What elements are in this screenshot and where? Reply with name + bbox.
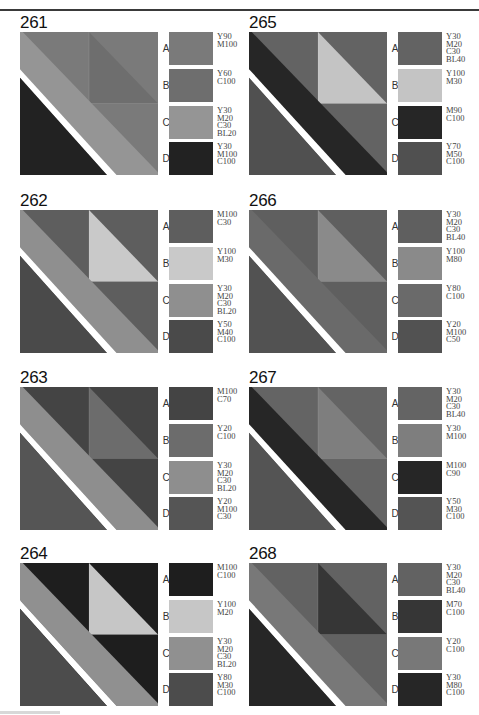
quilt-block-diagram [20, 387, 158, 530]
color-formula: Y30 M20 C30 BL40 [446, 564, 465, 594]
color-swatch [398, 461, 442, 494]
color-swatch [169, 637, 213, 670]
panel-number: 266 [249, 192, 276, 209]
color-swatch [169, 461, 213, 494]
color-swatch [398, 284, 442, 317]
color-formula: Y50 M30 C100 [446, 498, 464, 521]
color-swatch [398, 497, 442, 530]
color-formula: Y80 C100 [446, 285, 464, 300]
quilt-panel: 267AY30 M20 C30 BL40BY30 M100CM100 C90DY… [249, 369, 479, 547]
color-formula: Y30 M20 C30 BL40 [446, 33, 465, 63]
color-formula: Y30 M100 C100 [217, 143, 237, 166]
color-swatch [169, 387, 213, 420]
color-formula: M100 C30 [217, 211, 237, 226]
color-swatch [169, 247, 213, 280]
color-swatch [169, 673, 213, 706]
color-swatch [169, 424, 213, 457]
color-formula: Y30 M20 C30 BL40 [446, 388, 465, 418]
color-formula: M100 C70 [217, 388, 237, 403]
color-formula: Y30 M20 C30 BL20 [217, 107, 236, 137]
color-formula: Y20 M100 C50 [446, 321, 466, 344]
color-formula: Y30 M80 C100 [446, 674, 464, 697]
panel-number: 267 [249, 369, 276, 386]
quilt-panel: 261AY90 M100BY60 C100CY30 M20 C30 BL20DY… [20, 14, 250, 192]
color-swatch [398, 387, 442, 420]
quilt-panel: 265AY30 M20 C30 BL40BY100 M30CM90 C100DY… [249, 14, 479, 192]
quilt-block-diagram [249, 32, 387, 175]
top-rule [0, 9, 479, 11]
color-formula: M100 C100 [217, 564, 237, 579]
color-formula: Y100 M20 [217, 601, 236, 616]
quilt-block-diagram [20, 210, 158, 353]
color-formula: Y80 M30 C100 [217, 674, 235, 697]
panel-number: 264 [20, 545, 47, 562]
color-swatch [398, 69, 442, 102]
panel-number: 261 [20, 14, 47, 31]
color-formula: Y50 M40 C100 [217, 321, 235, 344]
color-swatch [398, 210, 442, 243]
color-formula: M90 C100 [446, 107, 464, 122]
color-swatch [398, 106, 442, 139]
quilt-block-diagram [20, 563, 158, 706]
color-swatch [169, 32, 213, 65]
color-swatch [169, 106, 213, 139]
panel-number: 265 [249, 14, 276, 31]
quilt-panel: 268AY30 M20 C30 BL40BM70 C100CY20 C100DY… [249, 545, 479, 715]
color-swatch [398, 247, 442, 280]
color-formula: Y100 M30 [446, 70, 465, 85]
quilt-block-diagram [20, 32, 158, 175]
color-swatch [169, 142, 213, 175]
panel-number: 268 [249, 545, 276, 562]
color-swatch [398, 320, 442, 353]
color-swatch [398, 563, 442, 596]
color-formula: Y20 C100 [217, 425, 235, 440]
color-swatch [169, 284, 213, 317]
color-formula: Y100 M80 [446, 248, 465, 263]
color-formula: Y60 C100 [217, 70, 235, 85]
color-formula: M70 C100 [446, 601, 464, 616]
quilt-panel: 262AM100 C30BY100 M30CY30 M20 C30 BL20DY… [20, 192, 250, 370]
panel-number: 262 [20, 192, 47, 209]
quilt-panel: 263AM100 C70BY20 C100CY30 M20 C30 BL20DY… [20, 369, 250, 547]
color-swatch [169, 497, 213, 530]
color-swatch [169, 69, 213, 102]
color-swatch [169, 600, 213, 633]
color-swatch [398, 424, 442, 457]
panel-number: 263 [20, 369, 47, 386]
quilt-panel: 266AY30 M20 C30 BL40BY100 M80CY80 C100DY… [249, 192, 479, 370]
color-formula: Y100 M30 [217, 248, 236, 263]
color-formula: Y90 M100 [217, 33, 237, 48]
color-formula: Y30 M20 C30 BL20 [217, 285, 236, 315]
color-formula: Y30 M20 C30 BL20 [217, 638, 236, 668]
quilt-panel: 264AM100 C100BY100 M20CY30 M20 C30 BL20D… [20, 545, 250, 715]
color-formula: Y30 M20 C30 BL20 [217, 462, 236, 492]
color-swatch [398, 637, 442, 670]
color-swatch [169, 210, 213, 243]
color-formula: Y20 M100 C30 [217, 498, 237, 521]
color-formula: M100 C90 [446, 462, 466, 477]
color-swatch [169, 320, 213, 353]
color-formula: Y30 M100 [446, 425, 466, 440]
color-swatch [398, 673, 442, 706]
color-swatch [398, 142, 442, 175]
color-swatch [398, 32, 442, 65]
quilt-block-diagram [249, 210, 387, 353]
color-swatch [169, 563, 213, 596]
color-formula: Y20 C100 [446, 638, 464, 653]
color-formula: Y30 M20 C30 BL40 [446, 211, 465, 241]
quilt-block-diagram [249, 563, 387, 706]
quilt-block-diagram [249, 387, 387, 530]
color-swatch [398, 600, 442, 633]
color-formula: Y70 M50 C100 [446, 143, 464, 166]
